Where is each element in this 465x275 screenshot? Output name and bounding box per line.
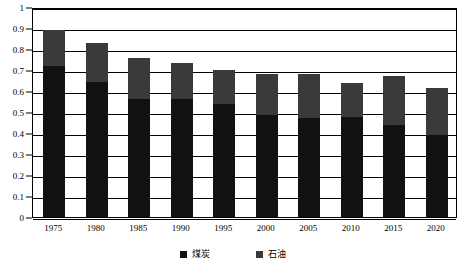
x-tick-label: 1990 bbox=[172, 224, 190, 233]
y-tick-label: 0.9 bbox=[13, 25, 24, 34]
y-tick-label: 0.4 bbox=[13, 130, 24, 139]
bar-group bbox=[341, 83, 363, 217]
plot-area bbox=[32, 8, 457, 218]
y-tick-label: 0.3 bbox=[13, 151, 24, 160]
legend-item-oil: 石油 bbox=[256, 250, 286, 259]
legend-swatch-oil bbox=[256, 251, 263, 258]
bar-group bbox=[86, 43, 108, 217]
legend-label-coal: 煤炭 bbox=[192, 250, 210, 259]
bar-group bbox=[213, 70, 235, 217]
chart-legend: 煤炭 石油 bbox=[0, 250, 465, 259]
bar-group bbox=[298, 74, 320, 217]
y-tick-label: 0.6 bbox=[13, 88, 24, 97]
x-tick-label: 1980 bbox=[87, 224, 105, 233]
bar-segment-coal bbox=[43, 66, 65, 217]
x-tick-label: 2015 bbox=[384, 224, 402, 233]
x-tick-label: 2010 bbox=[342, 224, 360, 233]
bar-segment-oil bbox=[171, 63, 193, 100]
y-tick-label: 1 bbox=[20, 4, 25, 13]
bar-segment-coal bbox=[426, 135, 448, 217]
bars-layer bbox=[33, 9, 456, 217]
bar-segment-oil bbox=[213, 70, 235, 104]
y-axis: 00.10.20.30.40.50.60.70.80.91 bbox=[0, 8, 32, 218]
legend-item-coal: 煤炭 bbox=[180, 250, 210, 259]
bar-segment-coal bbox=[86, 82, 108, 217]
x-tick-label: 2005 bbox=[299, 224, 317, 233]
stacked-bar-chart: 00.10.20.30.40.50.60.70.80.91 1975198019… bbox=[0, 0, 465, 275]
y-tick-label: 0.7 bbox=[13, 67, 24, 76]
x-tick-label: 1995 bbox=[214, 224, 232, 233]
bar-segment-coal bbox=[213, 104, 235, 217]
bar-segment-oil bbox=[426, 88, 448, 135]
bar-segment-coal bbox=[256, 115, 278, 217]
x-axis: 1975198019851990199520002005201020152020 bbox=[32, 218, 457, 244]
x-tick-label: 2020 bbox=[427, 224, 445, 233]
bar-segment-oil bbox=[383, 76, 405, 124]
legend-label-oil: 石油 bbox=[268, 250, 286, 259]
bar-group bbox=[171, 63, 193, 217]
bar-segment-coal bbox=[298, 118, 320, 217]
bar-group bbox=[128, 58, 150, 217]
bar-segment-oil bbox=[43, 30, 65, 66]
bar-segment-coal bbox=[383, 125, 405, 217]
y-tick-label: 0.8 bbox=[13, 46, 24, 55]
legend-swatch-coal bbox=[180, 251, 187, 258]
x-tick-label: 1985 bbox=[129, 224, 147, 233]
bar-group bbox=[426, 88, 448, 217]
x-tick-label: 2000 bbox=[257, 224, 275, 233]
x-tick-label: 1975 bbox=[44, 224, 62, 233]
bar-segment-oil bbox=[256, 74, 278, 115]
y-tick-label: 0 bbox=[20, 214, 25, 223]
bar-segment-coal bbox=[171, 99, 193, 217]
bar-segment-oil bbox=[341, 83, 363, 118]
bar-segment-coal bbox=[128, 99, 150, 217]
bar-group bbox=[256, 74, 278, 217]
bar-segment-oil bbox=[128, 58, 150, 99]
bar-group bbox=[43, 30, 65, 217]
bar-group bbox=[383, 76, 405, 217]
y-tick-label: 0.2 bbox=[13, 172, 24, 181]
y-tick-label: 0.5 bbox=[13, 109, 24, 118]
bar-segment-oil bbox=[298, 74, 320, 118]
bar-segment-coal bbox=[341, 117, 363, 217]
bar-segment-oil bbox=[86, 43, 108, 82]
y-tick-label: 0.1 bbox=[13, 193, 24, 202]
